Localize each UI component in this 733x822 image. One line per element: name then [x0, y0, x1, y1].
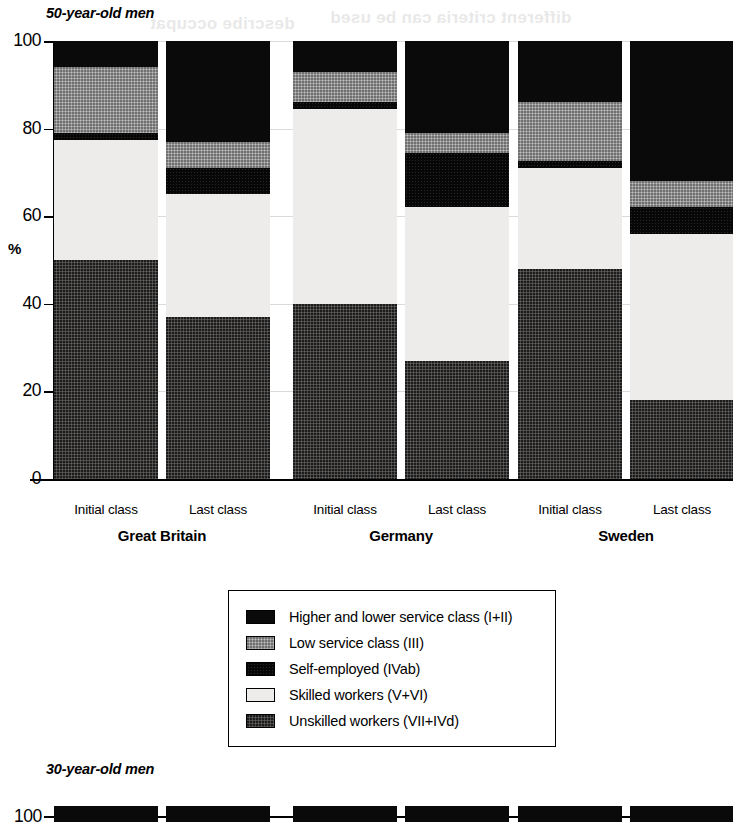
bar-segment-lowservice — [630, 181, 733, 207]
bar-segment-service — [405, 41, 509, 133]
stacked-bar-great-britain-last-class — [166, 41, 270, 479]
y-tick-60 — [44, 216, 54, 218]
bar-segment-skilled — [166, 194, 270, 317]
y-tick-80 — [44, 129, 54, 131]
bar-segment-selfemp — [293, 102, 397, 109]
bar-segment-skilled — [518, 168, 622, 269]
bar-segment-service — [54, 41, 158, 67]
y-tick-0 — [44, 479, 54, 481]
legend-label-skilled: Skilled workers (V+VI) — [289, 687, 428, 703]
y-tick-label-0: 0 — [32, 468, 41, 489]
panel-b-bar-4 — [405, 806, 509, 822]
panel-b-y-tick-label-100: 100 — [14, 806, 42, 822]
y-axis-title: % — [8, 240, 21, 257]
legend-item-skilled: Skilled workers (V+VI) — [246, 682, 512, 708]
legend-swatch-unskilled — [246, 714, 275, 728]
bar-segment-service — [518, 41, 622, 102]
stacked-bar-germany-initial-class — [293, 41, 397, 479]
legend-item-lowservice: Low service class (III) — [246, 630, 512, 656]
y-tick-40 — [44, 304, 54, 306]
bar-segment-lowservice — [405, 133, 509, 153]
bar-segment-unskilled — [293, 304, 397, 479]
panel-title-50-year-old-men: 50-year-old men — [46, 5, 154, 21]
group-label-germany: Germany — [293, 527, 509, 544]
panel-b-bar-1 — [54, 806, 158, 822]
x-label-sweden-last: Last class — [630, 502, 733, 517]
bar-segment-skilled — [405, 207, 509, 360]
x-label-germany-last: Last class — [405, 502, 509, 517]
legend-item-selfemp: Self-employed (IVab) — [246, 656, 512, 682]
stacked-bar-great-britain-initial-class — [54, 41, 158, 479]
legend-label-lowservice: Low service class (III) — [289, 635, 424, 651]
legend-swatch-skilled — [246, 688, 275, 702]
panel-b-bar-3 — [293, 806, 397, 822]
bar-segment-skilled — [630, 234, 733, 400]
bar-segment-service — [630, 41, 733, 181]
y-tick-label-40: 40 — [23, 293, 41, 314]
bar-segment-selfemp — [166, 168, 270, 194]
bar-segment-selfemp — [405, 153, 509, 208]
bar-segment-unskilled — [405, 361, 509, 479]
group-label-sweden: Sweden — [518, 527, 733, 544]
legend-swatch-service — [246, 610, 275, 624]
bar-segment-unskilled — [518, 269, 622, 479]
legend-label-selfemp: Self-employed (IVab) — [289, 661, 420, 677]
panel-b-y-tick-100 — [44, 816, 54, 818]
bar-segment-skilled — [293, 109, 397, 304]
legend-swatch-lowservice — [246, 636, 275, 650]
x-label-germany-initial: Initial class — [293, 502, 397, 517]
bar-segment-lowservice — [54, 67, 158, 133]
legend-label-unskilled: Unskilled workers (VII+IVd) — [289, 713, 459, 729]
y-tick-label-100: 100 — [13, 30, 41, 51]
x-label-gb-last: Last class — [166, 502, 270, 517]
bar-segment-selfemp — [54, 133, 158, 140]
stacked-bar-sweden-last-class — [630, 41, 733, 479]
group-label-great-britain: Great Britain — [54, 527, 270, 544]
y-tick-label-20: 20 — [23, 380, 41, 401]
panel-b-bar-2 — [166, 806, 270, 822]
bar-segment-unskilled — [630, 400, 733, 479]
legend-items: Higher and lower service class (I+II)Low… — [246, 604, 512, 734]
bar-segment-skilled — [54, 140, 158, 260]
legend: Higher and lower service class (I+II)Low… — [228, 590, 556, 747]
y-tick-label-60: 60 — [23, 205, 41, 226]
stacked-bar-sweden-initial-class — [518, 41, 622, 479]
x-label-sweden-initial: Initial class — [518, 502, 622, 517]
panel-b-bar-6 — [630, 806, 733, 822]
bar-segment-service — [166, 41, 270, 142]
bar-segment-lowservice — [293, 72, 397, 103]
y-tick-20 — [44, 391, 54, 393]
bar-segment-unskilled — [166, 317, 270, 479]
y-tick-100 — [44, 41, 54, 43]
bar-segment-lowservice — [518, 102, 622, 161]
bar-segment-service — [293, 41, 397, 72]
legend-swatch-selfemp — [246, 662, 275, 676]
bar-segment-unskilled — [54, 260, 158, 479]
panel-title-30-year-old-men: 30-year-old men — [46, 761, 154, 777]
legend-item-unskilled: Unskilled workers (VII+IVd) — [246, 708, 512, 734]
bar-segment-lowservice — [166, 142, 270, 168]
stacked-bar-germany-last-class — [405, 41, 509, 479]
legend-item-service: Higher and lower service class (I+II) — [246, 604, 512, 630]
bar-segment-selfemp — [630, 207, 733, 233]
x-axis-line — [30, 479, 733, 481]
bar-segment-selfemp — [518, 161, 622, 168]
legend-label-service: Higher and lower service class (I+II) — [289, 609, 512, 625]
panel-b-bar-5 — [518, 806, 622, 822]
y-tick-label-80: 80 — [23, 118, 41, 139]
x-label-gb-initial: Initial class — [54, 502, 158, 517]
